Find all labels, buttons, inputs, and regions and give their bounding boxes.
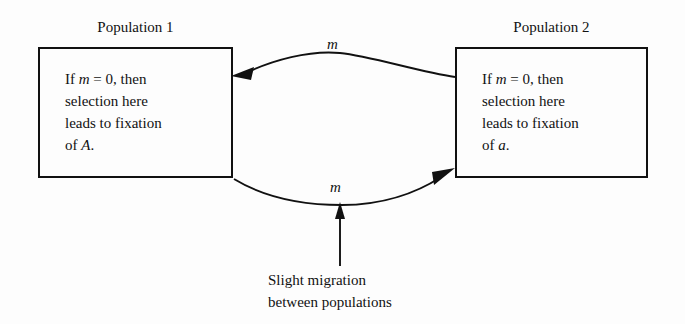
population-2-title: Population 2 [455,18,648,36]
migration-rate-label-top: m [327,36,338,53]
migration-caption: Slight migration between populations [268,269,392,313]
population-2-text: If m = 0, then selection here leads to f… [482,68,579,156]
population-1-title: Population 1 [38,18,233,36]
migration-diagram: Population 1 Population 2 If m = 0, then… [0,0,685,324]
caption-pointer-arrowhead [335,202,345,219]
migration-arrow-right-to-left [244,52,455,77]
arrowhead-left [231,67,254,80]
arrowhead-right [432,168,455,185]
migration-rate-label-bottom: m [330,179,341,196]
population-1-text: If m = 0, then selection here leads to f… [65,68,162,156]
